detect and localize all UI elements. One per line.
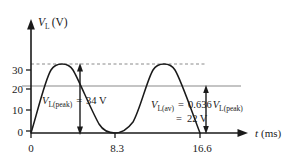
average-annotation-coefficient: 0.636: [188, 99, 212, 110]
x-tick-label-8p3: 8.3: [110, 142, 124, 154]
x-tick-label-0: 0: [28, 142, 34, 154]
peak-annotation-value: 34 V: [86, 95, 107, 106]
y-axis-arrowhead: [27, 19, 35, 30]
x-axis-title: t(ms): [255, 127, 282, 140]
peak-annotation-equals: =: [76, 95, 82, 106]
average-annotation-subscript: L(av): [157, 104, 174, 113]
average-annotation-line1: VL(av)=0.636VL(peak): [151, 99, 243, 113]
average-annotation-equals2: =: [176, 113, 182, 124]
y-tick-label-30: 30: [12, 64, 24, 76]
x-axis-title-symbol: t: [255, 127, 259, 139]
waveform-figure: 30 20 10 0 VL(V) 0 8.3 16.6 t(ms) VL(pea…: [0, 0, 286, 162]
average-annotation-value2: 22 V: [187, 113, 208, 124]
peak-annotation: VL(peak)=34 V: [42, 95, 107, 109]
y-axis-title-subscript: L: [45, 22, 50, 31]
x-axis-arrowhead: [238, 129, 249, 137]
y-axis-title-unit: (V): [52, 16, 68, 29]
y-tick-label-20: 20: [12, 83, 24, 95]
rectified-waveform-curve: [31, 64, 200, 133]
y-axis-title: VL(V): [38, 16, 68, 31]
y-tick-label-10: 10: [12, 104, 24, 116]
average-annotation-ref-subscript: L(peak): [219, 104, 243, 113]
x-axis-title-unit: (ms): [261, 127, 282, 140]
x-tick-label-16p6: 16.6: [192, 142, 212, 154]
average-annotation-line2: =22 V: [176, 113, 208, 124]
y-tick-label-0: 0: [18, 126, 24, 138]
peak-annotation-subscript: L(peak): [48, 100, 72, 109]
average-annotation-equals: =: [178, 99, 184, 110]
